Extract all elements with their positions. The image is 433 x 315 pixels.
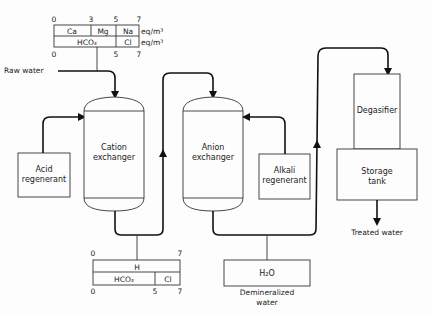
ion-hco3: HCO₃ bbox=[114, 275, 134, 284]
acid-feed-pipe bbox=[43, 117, 82, 153]
demineralized-water-label: water bbox=[256, 298, 278, 307]
alkali-regenerant-label: regenerant bbox=[262, 176, 306, 185]
scale-tick: 0 bbox=[52, 50, 57, 59]
acid-regenerant-label: Acid bbox=[35, 165, 52, 174]
process-diagram: 0 3 5 7 Ca Mg Na eq/m³ HCO₃ Cl eq/m³ 0 5… bbox=[0, 0, 433, 315]
acid-regenerant-label: regenerant bbox=[22, 175, 66, 184]
anion-exchanger-vessel: Anion exchanger bbox=[183, 97, 243, 211]
ion-na: Na bbox=[123, 27, 133, 36]
flow-arrow-icon bbox=[313, 140, 321, 148]
storage-tank-label: tank bbox=[368, 177, 386, 186]
cation-effluent-table: 0 7 H HCO₃ Cl 0 5 7 bbox=[91, 235, 183, 296]
treated-water-label: Treated water bbox=[350, 228, 404, 237]
scale-tick: 5 bbox=[114, 50, 119, 59]
flow-arrow-icon bbox=[159, 149, 167, 157]
alkali-regenerant-label: Alkali bbox=[274, 166, 296, 175]
h2o-label: H₂O bbox=[259, 269, 275, 278]
unit-label: eq/m³ bbox=[141, 38, 163, 47]
demineralized-water-label: Demineralized bbox=[240, 288, 295, 297]
scale-tick: 0 bbox=[91, 249, 96, 258]
ion-cl: Cl bbox=[124, 38, 131, 47]
scale-tick: 0 bbox=[52, 15, 57, 24]
cation-exchanger-label: Cation bbox=[101, 143, 127, 152]
unit-label: eq/m³ bbox=[141, 27, 163, 36]
degasifier-label: Degasifier bbox=[357, 106, 398, 115]
ion-cl: Cl bbox=[164, 275, 171, 284]
scale-tick: 3 bbox=[89, 15, 94, 24]
ion-mg: Mg bbox=[97, 27, 108, 36]
anion-exchanger-label: Anion bbox=[202, 143, 225, 152]
scale-tick: 5 bbox=[114, 15, 119, 24]
scale-tick: 7 bbox=[137, 15, 142, 24]
scale-tick: 7 bbox=[178, 249, 183, 258]
scale-tick: 7 bbox=[178, 287, 183, 296]
ion-hco3: HCO₃ bbox=[77, 38, 97, 47]
scale-tick: 0 bbox=[91, 287, 96, 296]
storage-tank-label: Storage bbox=[361, 167, 392, 176]
scale-tick: 5 bbox=[153, 287, 158, 296]
cation-exchanger-vessel: Cation exchanger bbox=[84, 97, 144, 211]
ion-h: H bbox=[134, 263, 140, 272]
raw-water-pipe bbox=[58, 71, 115, 95]
anion-exchanger-label: exchanger bbox=[192, 153, 235, 162]
raw-water-label: Raw water bbox=[4, 66, 44, 75]
cation-exchanger-label: exchanger bbox=[93, 153, 136, 162]
raw-water-composition-table: 0 3 5 7 Ca Mg Na eq/m³ HCO₃ Cl eq/m³ 0 5… bbox=[52, 15, 164, 71]
scale-tick: 7 bbox=[137, 50, 142, 59]
alkali-feed-pipe bbox=[246, 117, 285, 154]
ion-ca: Ca bbox=[67, 27, 77, 36]
